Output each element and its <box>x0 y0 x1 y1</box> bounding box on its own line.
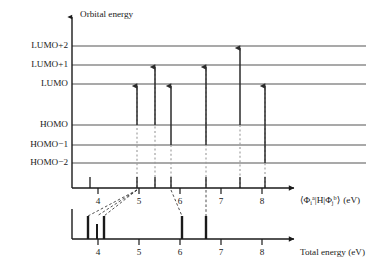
total-energy-axis-title: Total energy (eV) <box>300 247 365 257</box>
axis-tick-label: 5 <box>137 196 142 206</box>
level-label-homo: HOMO <box>40 119 68 129</box>
energy-level-labels: LUMO+2 LUMO+1 LUMO HOMO HOMO−1 HOMO−2 <box>30 40 68 167</box>
axis-tick-label: 8 <box>260 196 265 206</box>
matrix-element-axis-ticks <box>98 188 262 194</box>
braket-close: ⟩ <box>337 195 341 205</box>
level-label-lumo: LUMO <box>41 78 68 88</box>
dashed-connector <box>104 190 137 216</box>
total-energy-axis: 4 5 6 7 8 Total energy (eV) <box>72 209 365 257</box>
axis-tick-label: 4 <box>96 196 101 206</box>
axis-tick-label: 5 <box>137 247 142 257</box>
axis-tick-label: 6 <box>178 196 183 206</box>
axis-connectors <box>88 190 206 216</box>
dashed-connector <box>97 190 137 216</box>
matrix-element-axis-tick-labels: 4 5 6 7 8 <box>96 196 265 206</box>
braket-units: (eV) <box>343 195 360 205</box>
axis-tick-label: 8 <box>260 247 265 257</box>
axis-tick-label: 7 <box>219 196 224 206</box>
axis-tick-label: 4 <box>96 247 101 257</box>
orbital-energy-axis-title: Orbital energy <box>80 9 134 19</box>
total-energy-axis-ticks <box>98 239 262 245</box>
matrix-element-axis-title: ⟨Φia|H|Φjb⟩(eV) <box>300 194 360 206</box>
level-label-homo-minus-2: HOMO−2 <box>30 157 68 167</box>
energy-level-lines <box>72 46 366 163</box>
level-label-homo-minus-1: HOMO−1 <box>30 139 68 149</box>
total-energy-sticks <box>88 216 206 239</box>
level-label-lumo-plus-1: LUMO+1 <box>31 59 68 69</box>
axis-tick-label: 6 <box>178 247 183 257</box>
level-label-lumo-plus-2: LUMO+2 <box>31 40 68 50</box>
orbital-energy-axis: Orbital energy <box>72 9 134 188</box>
total-energy-axis-tick-labels: 4 5 6 7 8 <box>96 247 265 257</box>
axis-tick-label: 7 <box>219 247 224 257</box>
matrix-element-sticks <box>90 177 265 188</box>
orbital-energy-diagram: LUMO+2 LUMO+1 LUMO HOMO HOMO−1 HOMO−2 Or… <box>0 0 382 262</box>
